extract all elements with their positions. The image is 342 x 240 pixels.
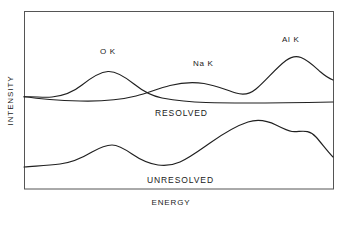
x-axis-label: ENERGY bbox=[0, 198, 342, 207]
panel-label-unresolved: UNRESOLVED bbox=[147, 175, 214, 185]
y-axis-label: INTENSITY bbox=[6, 69, 15, 133]
panel-label-resolved: RESOLVED bbox=[155, 108, 208, 118]
peak-label-al-k: Al K bbox=[282, 35, 299, 44]
peak-label-na-k: Na K bbox=[193, 59, 214, 68]
peak-label-o-k: O K bbox=[100, 47, 116, 56]
